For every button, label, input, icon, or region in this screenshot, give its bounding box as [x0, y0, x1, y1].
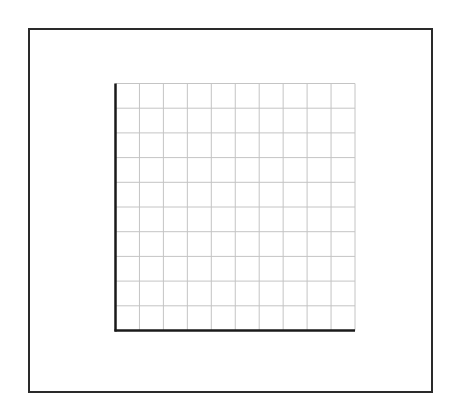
grid-canvas [114, 83, 356, 332]
grid [114, 83, 356, 332]
